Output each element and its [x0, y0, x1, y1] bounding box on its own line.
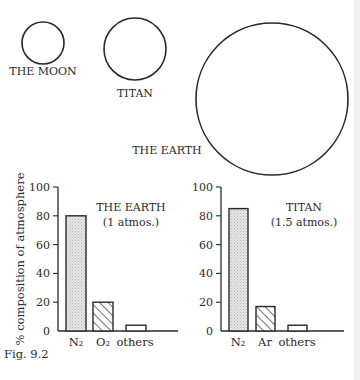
the-moon-circle	[22, 22, 64, 64]
y-tick-label: 80	[36, 210, 50, 223]
chart-subtitle: (1.5 atmos.)	[271, 216, 338, 229]
y-tick-label: 100	[29, 181, 50, 194]
chart-title: THE EARTH	[96, 201, 165, 214]
category-label: N₂	[231, 335, 246, 349]
y-tick-label: 60	[36, 239, 50, 252]
titan-circle	[104, 18, 166, 80]
chart-title: TITAN	[286, 201, 322, 214]
the-moon-label: THE MOON	[9, 65, 77, 78]
bar-n	[66, 216, 86, 331]
y-tick-label: 100	[192, 181, 213, 194]
earth-atmosphere-chart: 020406080100N₂O₂othersTHE EARTH(1 atmos.…	[29, 181, 178, 349]
celestial-bodies: THE MOONTITANTHE EARTH	[9, 18, 348, 175]
category-label: others	[116, 335, 153, 349]
titan-atmosphere-chart: 020406080100N₂ArothersTITAN(1.5 atmos.)	[192, 181, 344, 349]
the-earth-label: THE EARTH	[132, 144, 201, 157]
the-earth-circle	[196, 23, 348, 175]
y-tick-label: 0	[43, 325, 50, 338]
y-axis-label: % composition of atmosphere	[13, 172, 27, 345]
y-tick-label: 60	[199, 239, 213, 252]
figure-canvas: THE MOONTITANTHE EARTH % composition of …	[0, 0, 360, 380]
y-tick-label: 0	[206, 325, 213, 338]
y-tick-label: 40	[199, 267, 213, 280]
category-label: O₂	[96, 335, 110, 349]
bar-ar	[256, 307, 275, 331]
category-label: others	[278, 335, 315, 349]
category-label: N₂	[69, 335, 84, 349]
y-tick-label: 20	[199, 296, 213, 309]
y-tick-label: 40	[36, 267, 50, 280]
bar-o	[93, 302, 113, 331]
bar-n	[229, 209, 248, 331]
chart-subtitle: (1 atmos.)	[103, 216, 159, 229]
category-label: Ar	[257, 335, 272, 349]
bar-others	[126, 325, 146, 331]
y-tick-label: 20	[36, 296, 50, 309]
titan-label: TITAN	[117, 87, 153, 100]
figure-caption: Fig. 9.2	[4, 347, 49, 361]
bar-others	[288, 325, 307, 331]
y-tick-label: 80	[199, 210, 213, 223]
